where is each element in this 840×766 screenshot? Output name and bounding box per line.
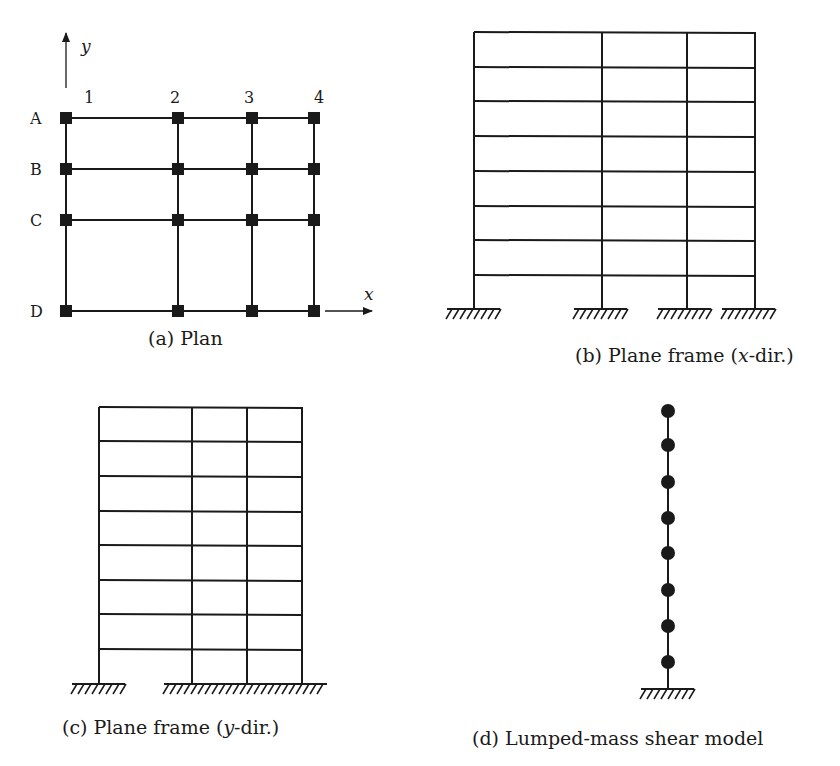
ground-hatch: [303, 684, 309, 694]
figure-canvas: y x 1234 ABCD (a) Plan (b) Plane frame (…: [0, 0, 840, 766]
column-node: [172, 305, 184, 317]
ground-hatch: [120, 684, 126, 694]
column-node: [60, 305, 72, 317]
column-node: [246, 214, 258, 226]
ground-hatch: [191, 684, 197, 694]
floor-beam: [474, 275, 755, 276]
ground-hatch: [495, 309, 501, 319]
ground-hatch: [467, 309, 473, 319]
lumped-mass: [661, 619, 675, 633]
row-label: D: [30, 302, 43, 321]
ground-hatch: [99, 684, 105, 694]
ground-hatch: [685, 309, 691, 319]
panel-c-plane-frame-y: (c) Plane frame (y-dir.): [62, 407, 327, 738]
floor-beam: [474, 171, 755, 172]
ground-hatch: [668, 689, 674, 699]
ground-hatch: [460, 309, 466, 319]
column-node: [60, 214, 72, 226]
ground-hatch: [170, 684, 176, 694]
floor-beam: [99, 407, 302, 408]
caption-d: (d) Lumped-mass shear model: [472, 727, 763, 749]
ground-hatch: [664, 309, 670, 319]
ground-hatch: [317, 684, 323, 694]
frame-x-members: [474, 32, 755, 309]
column-label: 3: [244, 88, 254, 107]
ground-hatch: [770, 309, 776, 319]
column-node: [308, 112, 320, 124]
ground-hatch: [678, 309, 684, 319]
row-label: C: [30, 211, 42, 230]
lumped-mass: [661, 583, 675, 597]
floor-beam: [99, 511, 302, 512]
ground-hatch: [163, 684, 169, 694]
frame-y-members: [99, 407, 302, 684]
ground-hatch: [254, 684, 260, 694]
column-node: [172, 214, 184, 226]
ground-hatch: [184, 684, 190, 694]
ground-hatch: [763, 309, 769, 319]
ground-hatch: [78, 684, 84, 694]
ground-hatch: [647, 689, 653, 699]
ground-hatch: [205, 684, 211, 694]
frame-x-fixed-supports: [446, 309, 776, 319]
ground-hatch: [601, 309, 607, 319]
ground-hatch: [275, 684, 281, 694]
column-node: [308, 305, 320, 317]
row-label: B: [30, 160, 42, 179]
ground-hatch: [615, 309, 621, 319]
ground-hatch: [261, 684, 267, 694]
ground-hatch: [682, 689, 688, 699]
ground-hatch: [692, 309, 698, 319]
ground-hatch: [675, 689, 681, 699]
ground-hatch: [177, 684, 183, 694]
caption-c: (c) Plane frame (y-dir.): [62, 716, 279, 738]
ground-hatch: [233, 684, 239, 694]
ground-hatch: [608, 309, 614, 319]
ground-hatch: [247, 684, 253, 694]
ground-hatch: [594, 309, 600, 319]
floor-beam: [99, 614, 302, 615]
ground-hatch: [728, 309, 734, 319]
column-node: [308, 214, 320, 226]
column-node: [246, 112, 258, 124]
ground-hatch: [310, 684, 316, 694]
lumped-mass: [661, 655, 675, 669]
ground-hatch: [289, 684, 295, 694]
row-labels: ABCD: [29, 109, 43, 321]
ground-hatch: [654, 689, 660, 699]
ground-hatch: [488, 309, 494, 319]
ground-hatch: [706, 309, 712, 319]
ground-hatch: [749, 309, 755, 319]
ground-hatch: [296, 684, 302, 694]
ground-hatch: [113, 684, 119, 694]
ground-hatch: [85, 684, 91, 694]
floor-beam: [99, 545, 302, 546]
plan-grid-lines: [66, 118, 314, 311]
column-node: [60, 112, 72, 124]
panel-b-plane-frame-x: (b) Plane frame (x-dir.): [446, 32, 794, 366]
panel-a-plan: y x 1234 ABCD (a) Plan: [29, 33, 374, 349]
ground-hatch: [657, 309, 663, 319]
caption-a: (a) Plan: [148, 327, 223, 349]
row-label: A: [29, 109, 42, 128]
ground-hatch: [699, 309, 705, 319]
lumped-mass: [661, 511, 675, 525]
caption-b: (b) Plane frame (x-dir.): [575, 344, 794, 366]
ground-hatch: [587, 309, 593, 319]
ground-hatch: [573, 309, 579, 319]
column-label: 1: [84, 88, 94, 107]
ground-hatch: [219, 684, 225, 694]
floor-beam: [474, 67, 755, 68]
floor-beam: [474, 32, 755, 33]
panel-d-lumped-mass-model: (d) Lumped-mass shear model: [472, 404, 763, 749]
ground-hatch: [481, 309, 487, 319]
column-node: [172, 163, 184, 175]
column-node: [308, 163, 320, 175]
column-node: [172, 112, 184, 124]
lumped-mass: [661, 404, 675, 418]
ground-hatch: [71, 684, 77, 694]
x-axis-label: x: [364, 284, 374, 304]
ground-hatch: [735, 309, 741, 319]
floor-beam: [474, 240, 755, 241]
ground-hatch: [580, 309, 586, 319]
